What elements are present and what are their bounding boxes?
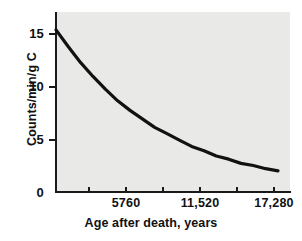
plot-area — [56, 12, 290, 192]
y-tick-5 — [49, 139, 57, 141]
x-axis-line — [55, 191, 291, 193]
y-tick-15 — [49, 33, 57, 35]
x-tick-14400 — [236, 187, 238, 193]
x-tick-label-5760: 5760 — [91, 196, 161, 210]
x-tick-2880 — [88, 187, 90, 193]
x-tick-17280 — [273, 187, 275, 193]
x-axis-title: Age after death, years — [0, 216, 302, 230]
x-tick-8640 — [162, 187, 164, 193]
carbon-14-decay-chart: 15 10 5 0 5760 11,520 17,280 Age after d… — [0, 0, 302, 241]
y-axis-line — [55, 12, 57, 193]
x-tick-5760 — [125, 187, 127, 193]
y-tick-10 — [49, 86, 57, 88]
x-tick-label-11520: 11,520 — [165, 196, 235, 210]
x-tick-label-17280: 17,280 — [239, 196, 302, 210]
x-tick-11520 — [199, 187, 201, 193]
y-axis-title: Counts/min/g C — [25, 9, 39, 189]
